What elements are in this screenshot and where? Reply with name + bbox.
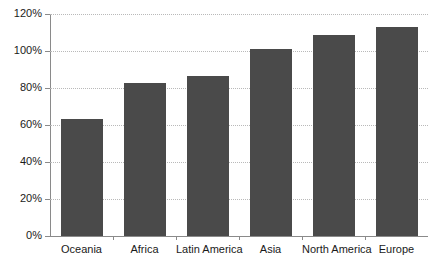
bar bbox=[187, 76, 229, 236]
y-axis-tick-label: 80% bbox=[0, 82, 42, 93]
gridline bbox=[50, 51, 428, 52]
y-axis-tick-label: 60% bbox=[0, 119, 42, 130]
bar-chart: 0%20%40%60%80%100%120% OceaniaAfricaLati… bbox=[0, 0, 436, 268]
gridline bbox=[50, 14, 428, 15]
bar bbox=[61, 119, 103, 236]
gridline bbox=[50, 162, 428, 163]
gridline bbox=[50, 125, 428, 126]
x-axis-tick-label: North America bbox=[302, 243, 365, 256]
x-axis-tick-label: Oceania bbox=[50, 243, 113, 256]
gridline bbox=[50, 88, 428, 89]
y-axis-tick-label: 120% bbox=[0, 8, 42, 19]
x-axis-tick-label: Asia bbox=[239, 243, 302, 256]
y-axis-tick-label: 0% bbox=[0, 230, 42, 241]
y-axis-tick-label: 20% bbox=[0, 193, 42, 204]
plot-area bbox=[50, 14, 428, 236]
y-axis-tick-label: 40% bbox=[0, 156, 42, 167]
x-axis-tick bbox=[176, 236, 177, 240]
x-axis-tick bbox=[239, 236, 240, 240]
x-axis-tick bbox=[302, 236, 303, 240]
gridline bbox=[50, 199, 428, 200]
y-axis-tick-label: 100% bbox=[0, 45, 42, 56]
x-axis-tick-label: Africa bbox=[113, 243, 176, 256]
x-axis-tick bbox=[365, 236, 366, 240]
x-axis-tick-label: Latin America bbox=[176, 243, 239, 256]
x-axis-tick-label: Europe bbox=[365, 243, 428, 256]
bar bbox=[250, 49, 292, 236]
bar bbox=[313, 35, 355, 236]
bar bbox=[124, 83, 166, 236]
bar bbox=[376, 27, 418, 236]
x-axis-tick bbox=[113, 236, 114, 240]
